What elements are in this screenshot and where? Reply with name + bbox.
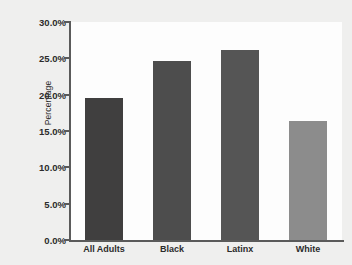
y-axis-tick-mark — [64, 203, 71, 205]
y-axis-tick-label: 15.0% — [22, 126, 66, 137]
bar-group — [153, 22, 191, 240]
bars-layer — [70, 22, 342, 240]
y-axis-tick-label: 0.0% — [22, 235, 66, 246]
y-axis-tick-mark — [64, 57, 71, 59]
x-axis-tick-labels: All AdultsBlackLatinxWhite — [70, 244, 342, 260]
x-axis-tick-label: All Adults — [70, 244, 138, 254]
x-axis-tick-label: White — [274, 244, 342, 254]
x-axis-tick-label: Black — [138, 244, 206, 254]
bar-chart: Percentage 0.0%5.0%10.0%15.0%20.0%25.0%3… — [0, 0, 352, 265]
bar-latinx[interactable] — [221, 50, 259, 240]
x-axis-line — [69, 240, 344, 242]
y-axis-tick-label: 20.0% — [22, 89, 66, 100]
y-axis-tick-mark — [64, 94, 71, 96]
x-axis-tick-label: Latinx — [206, 244, 274, 254]
y-axis-tick-label: 30.0% — [22, 17, 66, 28]
bar-black[interactable] — [153, 61, 191, 240]
bar-all-adults[interactable] — [85, 98, 123, 240]
y-axis-tick-mark — [64, 130, 71, 132]
y-axis-tick-labels: 0.0%5.0%10.0%15.0%20.0%25.0%30.0% — [22, 0, 66, 265]
y-axis-tick-mark — [64, 239, 71, 241]
y-axis-tick-mark — [64, 166, 71, 168]
y-axis-tick-label: 25.0% — [22, 53, 66, 64]
bar-white[interactable] — [289, 121, 327, 240]
bar-group — [85, 22, 123, 240]
bar-group — [221, 22, 259, 240]
y-axis-tick-label: 5.0% — [22, 198, 66, 209]
y-axis-tick-label: 10.0% — [22, 162, 66, 173]
y-axis-tick-mark — [64, 21, 71, 23]
bar-group — [289, 22, 327, 240]
